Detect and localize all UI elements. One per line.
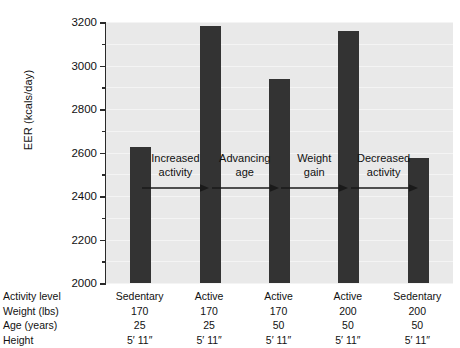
gridline (106, 66, 453, 67)
tick-mark (102, 44, 106, 46)
y-axis-title: EER (kcals/day) (22, 40, 34, 180)
tick-mark (100, 109, 106, 111)
bar (269, 79, 290, 283)
row-label-age: Age (years) (3, 318, 103, 333)
y-axis-tick-label: 2200 (57, 234, 97, 246)
cell-age: 50 (372, 318, 460, 333)
row-label-weight: Weight (lbs) (3, 304, 103, 319)
tick-mark (100, 153, 106, 155)
tick-mark (100, 240, 106, 242)
y-axis-tick-label: 2600 (57, 147, 97, 159)
data-table-column: Sedentary200505′ 11″ (372, 289, 460, 347)
gridline (106, 22, 453, 23)
y-axis-tick-label: 2000 (57, 277, 97, 289)
y-axis-tick-label: 3200 (57, 16, 97, 28)
gridline (106, 283, 453, 284)
tick-mark (102, 131, 106, 133)
tick-mark (100, 66, 106, 68)
tick-mark (102, 261, 106, 263)
tick-mark (100, 283, 106, 285)
y-axis-tick-label: 3000 (57, 60, 97, 72)
y-axis-tick-label: 2800 (57, 103, 97, 115)
tick-mark (102, 218, 106, 220)
cell-weight: 200 (372, 304, 460, 319)
tick-mark (100, 196, 106, 198)
right-arrow-icon (341, 183, 427, 193)
y-axis-tick-label: 2400 (57, 190, 97, 202)
annotation-line-1: Decreased (341, 152, 427, 166)
tick-mark (102, 87, 106, 89)
row-label-height: Height (3, 333, 103, 348)
tick-mark (100, 22, 106, 24)
data-table-row-labels: Activity levelWeight (lbs)Age (years)Hei… (3, 289, 103, 347)
gridline (106, 44, 453, 45)
cell-activity-level: Sedentary (372, 289, 460, 304)
annotation-line-2: activity (341, 166, 427, 180)
eer-bar-chart-figure: EER (kcals/day) 200022002400260028003000… (0, 0, 460, 348)
row-label-activity-level: Activity level (3, 289, 103, 304)
annotation-label: Decreasedactivity (341, 152, 427, 179)
plot-area: 2000220024002600280030003200Increasedact… (105, 22, 453, 284)
tick-mark (102, 174, 106, 176)
cell-height: 5′ 11″ (372, 333, 460, 348)
